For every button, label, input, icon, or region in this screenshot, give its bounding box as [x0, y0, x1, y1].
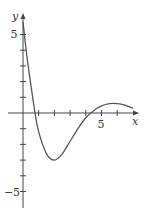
y-tick-label-neg5: −5	[4, 186, 20, 199]
x-axis-label: x	[132, 115, 139, 128]
y-tick-label-5: 5	[11, 28, 18, 41]
y-axis: 5 −5 y	[4, 10, 26, 208]
y-axis-label: y	[11, 10, 19, 23]
x-tick-label-5: 5	[98, 118, 105, 131]
chart: 5 x 5 −5 y	[0, 0, 148, 224]
data-curve	[23, 22, 133, 160]
y-axis-arrow-icon	[21, 13, 26, 19]
x-axis: 5 x	[8, 110, 139, 131]
